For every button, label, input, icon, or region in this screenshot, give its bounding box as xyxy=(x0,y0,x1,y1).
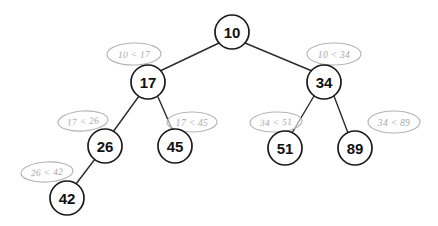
tree-node[interactable]: 10 xyxy=(215,15,249,49)
annotation-label: 34 < 51 xyxy=(259,117,293,128)
comparison-annotation: 34 < 89 xyxy=(368,111,420,133)
tree-node[interactable]: 51 xyxy=(268,131,302,165)
tree-edge xyxy=(245,43,312,71)
annotation-label: 17 < 45 xyxy=(176,118,208,128)
node-value-label: 45 xyxy=(167,138,184,155)
tree-node[interactable]: 17 xyxy=(131,65,165,99)
tree-edge xyxy=(160,43,219,71)
comparison-annotation: 10 < 34 xyxy=(307,43,361,65)
annotation-label: 10 < 17 xyxy=(118,49,151,60)
tree-edge xyxy=(76,159,95,184)
bst-diagram: 10 < 1710 < 3417 < 2617 < 4534 < 5134 < … xyxy=(0,0,438,226)
tree-edge xyxy=(334,96,348,133)
node-value-label: 51 xyxy=(277,140,294,157)
annotation-label: 10 < 34 xyxy=(318,50,350,60)
tree-node[interactable]: 34 xyxy=(307,65,341,99)
node-value-label: 26 xyxy=(97,138,114,155)
node-value-label: 10 xyxy=(224,24,241,41)
node-value-label: 17 xyxy=(140,74,157,91)
tree-node[interactable]: 42 xyxy=(50,181,84,215)
tree-node[interactable]: 89 xyxy=(338,131,372,165)
tree-edges-group xyxy=(76,43,348,184)
comparison-annotation: 26 < 42 xyxy=(21,161,74,184)
comparison-annotation: 10 < 17 xyxy=(107,43,161,66)
node-value-label: 42 xyxy=(59,190,76,207)
tree-node[interactable]: 26 xyxy=(88,129,122,163)
bst-canvas: 10 < 1710 < 3417 < 2617 < 4534 < 5134 < … xyxy=(0,0,438,226)
tree-node[interactable]: 45 xyxy=(158,129,192,163)
node-value-label: 34 xyxy=(316,74,333,91)
tree-edge xyxy=(113,96,139,132)
annotation-label: 26 < 42 xyxy=(31,167,64,179)
annotation-label: 34 < 89 xyxy=(377,118,410,128)
node-value-label: 89 xyxy=(347,140,364,157)
